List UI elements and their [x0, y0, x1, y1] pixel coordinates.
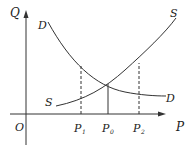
- svg-text:1: 1: [82, 128, 86, 135]
- supply-label-top: S: [170, 7, 178, 20]
- supply-label-bottom: S: [45, 96, 53, 109]
- p1-label: P 1: [73, 122, 86, 135]
- svg-text:2: 2: [140, 128, 145, 135]
- p2-label: P 2: [132, 122, 145, 135]
- y-axis-arrow-icon: [24, 10, 29, 18]
- demand-label-bottom: D: [165, 92, 175, 105]
- svg-text:P: P: [101, 122, 110, 135]
- supply-curve: [56, 18, 176, 106]
- demand-label-top: D: [37, 19, 47, 32]
- x-axis-label: P: [175, 120, 185, 134]
- x-axis: [10, 112, 166, 117]
- svg-text:P: P: [132, 122, 141, 135]
- y-axis-label: Q: [10, 6, 20, 20]
- y-axis: [24, 10, 29, 145]
- supply-demand-diagram: Q P O D D S S P 1 P 0 P 2: [0, 0, 188, 154]
- origin-label: O: [15, 121, 24, 134]
- svg-text:0: 0: [110, 128, 114, 135]
- p0-label: P 0: [101, 122, 114, 135]
- x-axis-arrow-icon: [158, 112, 166, 117]
- svg-text:P: P: [73, 122, 82, 135]
